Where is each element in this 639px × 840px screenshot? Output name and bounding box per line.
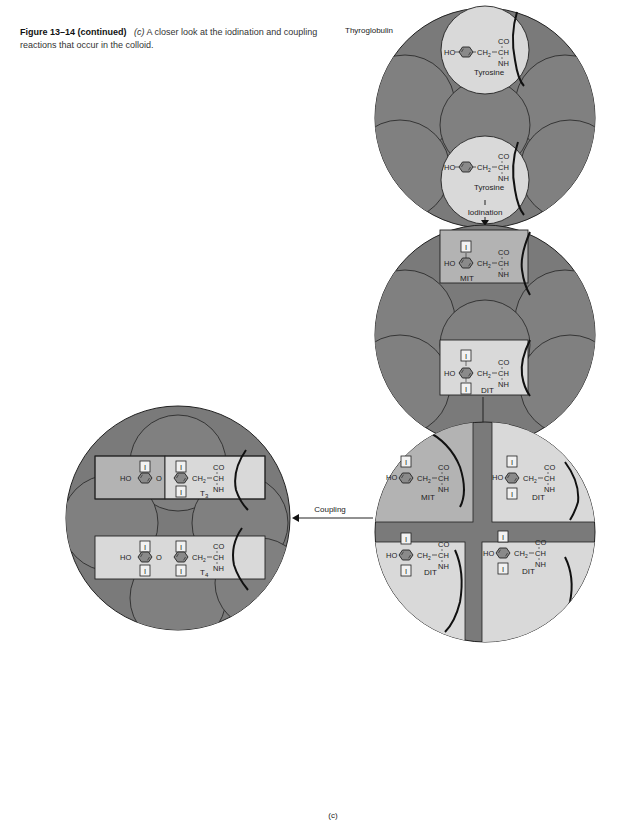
dit-quadrant-label-2: DIT	[424, 568, 437, 577]
iodination-label: Iodination	[468, 208, 503, 217]
svg-text:HO: HO	[386, 551, 397, 560]
tyrosine-label-1: Tyrosine	[474, 68, 505, 77]
svg-text:HO: HO	[444, 163, 455, 172]
svg-text:HO: HO	[386, 473, 397, 482]
thyroglobulin-circle-quadrants: HO MIT HO DIT HO DIT HO DIT	[370, 422, 602, 652]
thyroglobulin-diagram: I CH 2 CH CO NH Thyroglobulin	[0, 0, 639, 840]
mit-quadrant-label: MIT	[421, 493, 435, 502]
coupling-label: Coupling	[314, 505, 346, 514]
mit-label: MIT	[460, 274, 474, 283]
svg-text:O: O	[156, 474, 162, 483]
svg-text:HO: HO	[444, 369, 455, 378]
dit-label: DIT	[481, 386, 494, 395]
thyroglobulin-circle-mit-dit: HO MIT HO DIT	[350, 225, 620, 445]
svg-text:HO: HO	[120, 553, 131, 562]
dit-quadrant-label-1: DIT	[532, 493, 545, 502]
svg-text:HO: HO	[120, 474, 131, 483]
coupling-arrow: Coupling	[292, 505, 373, 522]
thyroglobulin-circle-t3-t4: HO O T3 HO O T4	[62, 406, 305, 646]
tyrosine-label-2: Tyrosine	[474, 183, 505, 192]
dit-quadrant-label-3: DIT	[522, 567, 535, 576]
panel-label: (c)	[328, 811, 338, 820]
thyroglobulin-circle-tyrosine: HO Tyrosine HO Tyrosine	[350, 6, 620, 228]
thyroglobulin-label: Thyroglobulin	[345, 26, 393, 35]
svg-text:HO: HO	[444, 48, 455, 57]
svg-text:HO: HO	[444, 259, 455, 268]
svg-text:O: O	[156, 553, 162, 562]
svg-text:HO: HO	[492, 473, 503, 482]
svg-text:HO: HO	[483, 549, 494, 558]
